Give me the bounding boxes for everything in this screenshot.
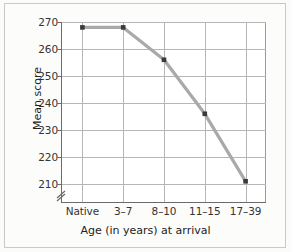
y-axis-tick-mark <box>57 103 62 104</box>
y-axis-tick-mark <box>57 22 62 23</box>
y-axis-tick-mark <box>57 76 62 77</box>
plot-area <box>62 22 266 203</box>
y-axis-tick-mark <box>57 184 62 185</box>
data-point-marker <box>121 25 126 30</box>
y-axis-tick-mark <box>57 130 62 131</box>
x-axis-title: Age (in years) at arrival <box>0 224 291 237</box>
y-axis-tick-mark <box>57 157 62 158</box>
data-point-marker <box>203 112 208 117</box>
figure-container: 210220230240250260270 Native3–78–1011–15… <box>0 0 291 252</box>
y-axis-title-wrap: Mean score <box>22 0 52 252</box>
y-axis-tick-mark <box>57 49 62 50</box>
data-point-marker <box>80 25 85 30</box>
x-axis-tick-label: 11–15 <box>189 205 220 217</box>
y-axis-title: Mean score <box>31 39 44 159</box>
data-point-marker <box>162 58 167 63</box>
series-polyline <box>82 27 245 181</box>
x-axis-tick-label: 8–10 <box>152 205 177 217</box>
x-axis-line <box>61 202 266 203</box>
x-axis-tick-label: 17–39 <box>230 205 261 217</box>
x-axis-tick-label: 3–7 <box>114 205 132 217</box>
data-series-line <box>62 22 266 203</box>
data-point-marker <box>243 179 248 184</box>
x-axis-tick-label: Native <box>66 205 99 217</box>
